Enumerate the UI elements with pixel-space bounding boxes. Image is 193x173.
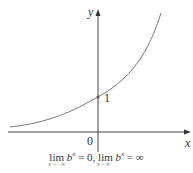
lim-subscript: x→∞: [97, 161, 110, 167]
limit-value: = 0,: [75, 151, 98, 163]
limit-value: = ∞: [124, 151, 144, 163]
intercept-point: [97, 96, 100, 99]
limit-2: limx→∞: [98, 151, 113, 163]
x-axis-label: x: [185, 137, 190, 149]
limit-caption: limx→−∞ bx = 0, limx→∞ bx = ∞: [0, 150, 193, 163]
exponential-curve: [10, 13, 161, 127]
y-axis-arrow-icon: [96, 9, 101, 16]
origin-label: 0: [87, 135, 93, 147]
limit-1: limx→−∞: [49, 151, 64, 163]
x-axis-arrow-icon: [184, 130, 191, 135]
intercept-label: 1: [104, 92, 110, 104]
exponential-graph: [0, 0, 193, 173]
lim-subscript: x→−∞: [48, 161, 65, 167]
y-axis-label: y: [88, 6, 93, 18]
